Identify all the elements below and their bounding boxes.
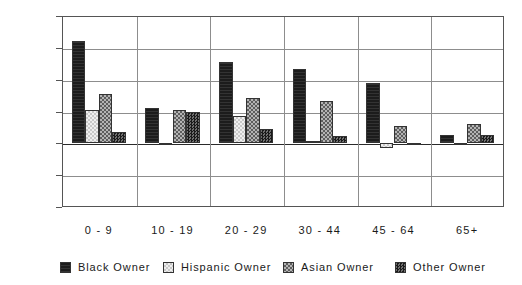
bar [186, 112, 200, 143]
legend-item: Asian Owner [283, 258, 374, 276]
y-axis-tick-mark [56, 207, 62, 208]
bar [112, 132, 126, 143]
legend-label: Black Owner [78, 261, 150, 273]
legend-label: Asian Owner [301, 261, 374, 273]
bar [366, 83, 380, 143]
legend-item: Hispanic Owner [163, 258, 271, 276]
bar [233, 116, 247, 143]
bar [394, 126, 408, 144]
bars-layer [62, 16, 504, 207]
bar [159, 143, 173, 145]
legend-swatch-icon [395, 262, 406, 273]
bar [99, 94, 113, 143]
legend-item: Other Owner [395, 258, 486, 276]
bar [293, 69, 307, 143]
legend-swatch-icon [163, 262, 174, 273]
legend-label: Hispanic Owner [181, 261, 271, 273]
x-axis-tick-label: 30 - 44 [299, 224, 342, 236]
legend-swatch-icon [283, 262, 294, 273]
bar [173, 110, 187, 144]
bar [440, 135, 454, 143]
chart-legend: Black OwnerHispanic OwnerAsian OwnerOthe… [0, 258, 522, 278]
bar [320, 101, 334, 143]
legend-label: Other Owner [413, 261, 486, 273]
legend-swatch-icon [60, 262, 71, 273]
bar [246, 98, 260, 143]
x-axis-tick-label: 0 - 9 [85, 224, 113, 236]
bar [467, 124, 481, 143]
bar [481, 135, 495, 143]
bar [145, 108, 159, 144]
x-axis-tick-label: 65+ [456, 224, 478, 236]
x-axis-tick-label: 45 - 64 [372, 224, 415, 236]
bar [454, 143, 468, 145]
bar-chart: 1.201.151.101.051.000.950.90 0 - 910 - 1… [0, 0, 522, 285]
bar [85, 110, 99, 143]
bar [407, 143, 421, 145]
bar [333, 136, 347, 143]
x-axis-tick-label: 10 - 19 [151, 224, 194, 236]
bar [260, 129, 274, 143]
bar [72, 41, 86, 143]
bar [219, 62, 233, 143]
bar [306, 141, 320, 143]
bar [380, 143, 394, 147]
legend-item: Black Owner [60, 258, 150, 276]
x-axis-tick-label: 20 - 29 [225, 224, 268, 236]
